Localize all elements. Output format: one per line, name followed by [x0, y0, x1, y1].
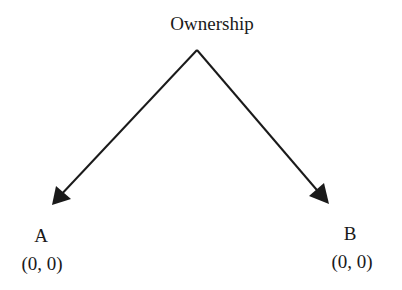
arrowhead-a-icon — [52, 186, 71, 205]
tree-edges — [0, 0, 402, 290]
child-b-label: B — [344, 224, 357, 243]
arrowhead-b-icon — [309, 183, 329, 204]
child-a-payoff: (0, 0) — [21, 254, 62, 273]
child-b-payoff: (0, 0) — [331, 252, 372, 271]
child-a-label: A — [34, 226, 48, 245]
edge-to-b — [197, 50, 329, 204]
edge-to-a — [52, 50, 197, 205]
